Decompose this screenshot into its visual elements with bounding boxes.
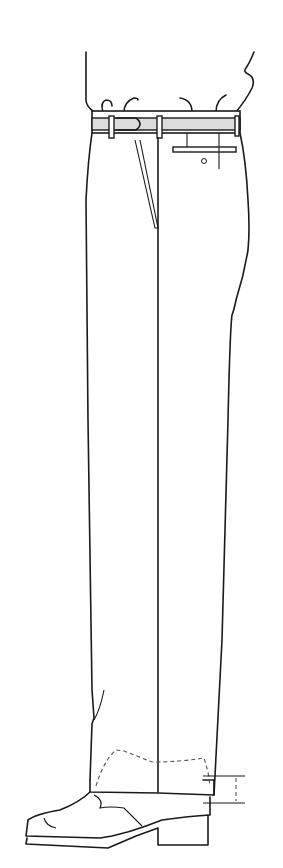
belt-loop-center [157,116,162,138]
trouser-leg [86,133,249,795]
back-pocket [173,147,236,152]
belt-loop-right [235,116,239,136]
trousers-drawing [0,0,283,868]
trousers-illustration [0,0,283,868]
button [202,159,207,164]
side-pocket [135,140,158,228]
shoe [26,792,210,848]
hem [90,750,214,795]
belt-loop-left [109,116,114,138]
shirt-outline [86,52,254,112]
